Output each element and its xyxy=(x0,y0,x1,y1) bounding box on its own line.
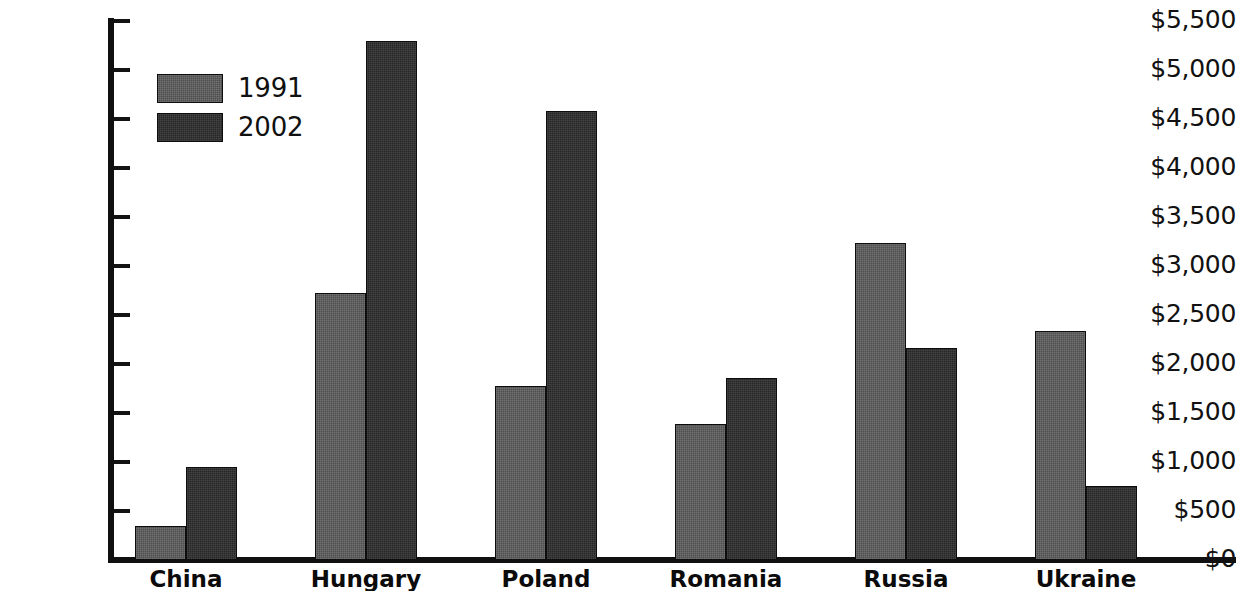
bar-ukraine-1991 xyxy=(1035,331,1086,560)
bar-russia-1991 xyxy=(855,243,906,560)
bar-hungary-1991 xyxy=(315,293,366,560)
bar-hungary-2002 xyxy=(366,41,417,560)
bar-china-1991 xyxy=(135,526,186,560)
x-tick-label-ukraine: Ukraine xyxy=(996,567,1176,591)
legend: 19912002 xyxy=(157,72,303,150)
legend-label-2002: 2002 xyxy=(238,114,303,140)
legend-swatch-1991 xyxy=(157,74,223,103)
x-tick-label-hungary: Hungary xyxy=(276,567,456,591)
bar-china-2002 xyxy=(186,467,237,560)
bar-romania-2002 xyxy=(726,378,777,560)
legend-item-2002: 2002 xyxy=(157,111,303,143)
bar-poland-2002 xyxy=(546,111,597,560)
x-tick-label-russia: Russia xyxy=(816,567,996,591)
x-tick-label-romania: Romania xyxy=(636,567,816,591)
legend-item-1991: 1991 xyxy=(157,72,303,104)
bar-russia-2002 xyxy=(906,348,957,560)
bar-poland-1991 xyxy=(495,386,546,560)
bar-chart: $0$500$1,000$1,500$2,000$2,500$3,000$3,5… xyxy=(0,0,1236,591)
bar-ukraine-2002 xyxy=(1086,486,1137,560)
legend-label-1991: 1991 xyxy=(238,75,303,101)
x-tick-label-china: China xyxy=(96,567,276,591)
legend-swatch-2002 xyxy=(157,113,223,142)
bar-romania-1991 xyxy=(675,424,726,560)
x-tick-label-poland: Poland xyxy=(456,567,636,591)
